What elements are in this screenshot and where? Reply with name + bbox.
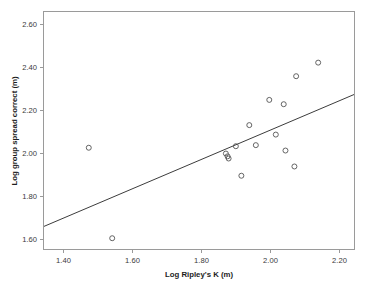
data-point-series: [86, 60, 320, 241]
y-axis-title: Log group spread correct (m): [10, 76, 19, 186]
y-tick-label: 2.60: [22, 20, 37, 29]
trend-line: [44, 95, 354, 227]
data-point: [294, 74, 299, 79]
data-point: [253, 143, 258, 148]
data-point: [110, 236, 115, 241]
y-tick-label: 2.20: [22, 106, 37, 115]
x-tick-label: 1.80: [194, 256, 209, 265]
y-tick-label: 2.40: [22, 63, 37, 72]
x-tick-label: 2.00: [263, 256, 278, 265]
plot-canvas: 1.401.601.802.002.20 1.601.802.002.202.4…: [0, 0, 369, 293]
x-tick-label: 1.40: [56, 256, 71, 265]
regression-line: [44, 95, 354, 227]
data-point: [316, 60, 321, 65]
data-point: [273, 132, 278, 137]
y-axis-tick-labels: 1.601.802.002.202.402.60: [22, 20, 37, 244]
data-point: [247, 123, 252, 128]
data-point: [267, 97, 272, 102]
x-tick-label: 1.60: [125, 256, 140, 265]
x-axis-title: Log Ripley's K (m): [165, 270, 234, 279]
data-point: [239, 173, 244, 178]
data-point: [292, 164, 297, 169]
data-point: [281, 102, 286, 107]
y-tick-label: 2.00: [22, 149, 37, 158]
data-point: [86, 145, 91, 150]
scatter-plot-figure: 1.401.601.802.002.20 1.601.802.002.202.4…: [0, 0, 369, 293]
x-axis-tick-labels: 1.401.601.802.002.20: [56, 256, 347, 265]
y-tick-label: 1.60: [22, 235, 37, 244]
plot-frame: [44, 12, 355, 250]
data-point: [283, 148, 288, 153]
x-tick-label: 2.20: [332, 256, 347, 265]
y-tick-label: 1.80: [22, 192, 37, 201]
